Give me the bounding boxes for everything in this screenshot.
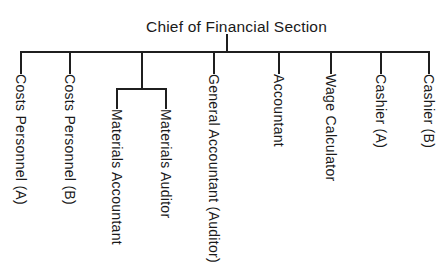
node-accountant: Accountant [272, 74, 286, 147]
drop-cashier-a [380, 51, 382, 74]
drop-materials-accountant [116, 88, 118, 109]
root-connector [226, 34, 228, 52]
drop-costs-b [69, 51, 71, 74]
node-general-accountant: General Accountant (Auditor) [207, 74, 221, 263]
node-wage-calculator: Wage Calculator [324, 74, 338, 181]
drop-general-accountant [213, 51, 215, 74]
materials-sub-bar [116, 88, 167, 90]
node-materials-accountant: Materials Accountant [110, 109, 124, 245]
node-costs-personnel-a: Costs Personnel (A) [14, 74, 28, 205]
drop-materials-group [141, 51, 143, 89]
drop-wage-calculator [330, 51, 332, 74]
node-materials-auditor: Materials Auditor [159, 109, 173, 218]
node-cashier-a: Cashier (A) [374, 74, 388, 148]
drop-accountant [278, 51, 280, 74]
main-branch-bar [20, 51, 430, 53]
drop-costs-a [20, 51, 22, 74]
drop-cashier-b [428, 51, 430, 74]
root-node-chief: Chief of Financial Section [146, 18, 327, 36]
node-cashier-b: Cashier (B) [422, 74, 436, 148]
drop-materials-auditor [165, 88, 167, 109]
node-costs-personnel-b: Costs Personnel (B) [63, 74, 77, 205]
